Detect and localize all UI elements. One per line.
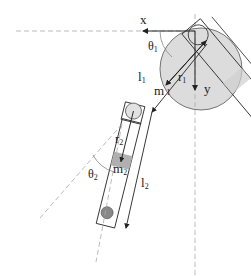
- double-pendulum-diagram: x y θ1 l1 r1 m1 r2 m2 θ2 l2: [0, 0, 251, 276]
- y-label: y: [204, 81, 211, 96]
- end-mass: [100, 205, 115, 220]
- l1-label: l1: [138, 69, 146, 85]
- l2-label: l2: [141, 175, 149, 191]
- theta1-label: θ1: [148, 39, 158, 54]
- r2-label: r2: [115, 131, 123, 147]
- base-disc: [160, 28, 242, 110]
- x-label: x: [140, 12, 147, 27]
- diagram-svg: x y θ1 l1 r1 m1 r2 m2 θ2 l2: [0, 0, 251, 276]
- theta2-label: θ2: [88, 167, 98, 182]
